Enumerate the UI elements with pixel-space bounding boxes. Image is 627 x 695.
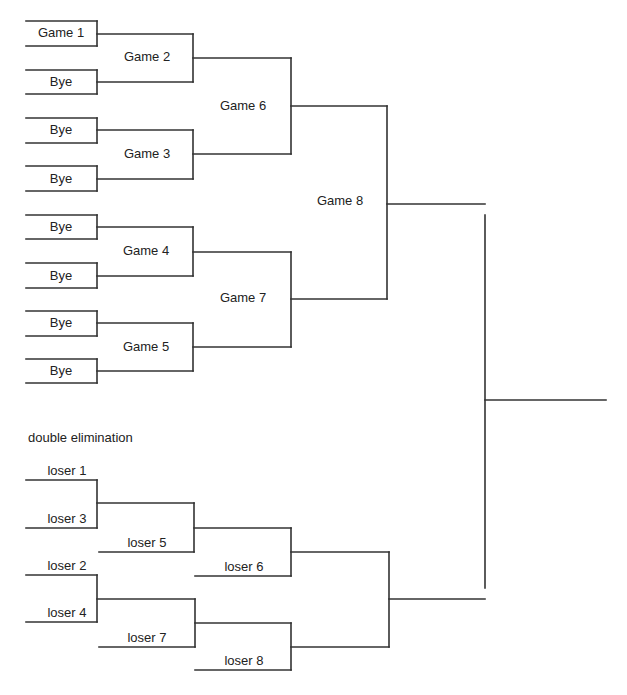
first-round-slot-label: Bye bbox=[50, 74, 72, 90]
championship-connectors bbox=[485, 215, 606, 588]
first-round-slot-label: Bye bbox=[50, 122, 72, 138]
losers-slot-label: loser 7 bbox=[127, 630, 166, 646]
first-round-slot-label: Bye bbox=[50, 315, 72, 331]
second-round-game-label: Game 5 bbox=[123, 339, 169, 355]
losers-slot-label: loser 1 bbox=[47, 463, 86, 479]
semifinal-game-label: Game 6 bbox=[220, 98, 266, 114]
losers-slot-label: loser 4 bbox=[47, 605, 86, 621]
semifinal-game-label: Game 7 bbox=[220, 290, 266, 306]
first-round-slot-label: Bye bbox=[50, 268, 72, 284]
losers-slot-label: loser 3 bbox=[47, 511, 86, 527]
bracket-diagram: Game 1 Bye Bye Bye Bye Bye Bye Bye Game … bbox=[0, 0, 627, 695]
second-round-game-label: Game 3 bbox=[124, 146, 170, 162]
second-round-game-label: Game 2 bbox=[124, 49, 170, 65]
losers-slot-label: loser 5 bbox=[127, 535, 166, 551]
losers-bracket-title: double elimination bbox=[28, 430, 133, 446]
winners-final-game-label: Game 8 bbox=[317, 193, 363, 209]
first-round-slot-label: Game 1 bbox=[38, 25, 84, 41]
second-round-game-label: Game 4 bbox=[123, 243, 169, 259]
second-round-connectors bbox=[97, 34, 193, 371]
losers-bracket-lines bbox=[26, 480, 485, 670]
losers-slot-label: loser 8 bbox=[224, 653, 263, 669]
bracket-lines bbox=[0, 0, 627, 695]
losers-slot-label: loser 6 bbox=[224, 559, 263, 575]
first-round-slot-label: Bye bbox=[50, 171, 72, 187]
first-round-slot-label: Bye bbox=[50, 219, 72, 235]
losers-slot-label: loser 2 bbox=[47, 558, 86, 574]
first-round-slot-label: Bye bbox=[50, 363, 72, 379]
